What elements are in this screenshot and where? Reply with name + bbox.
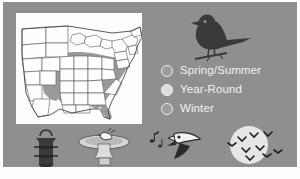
migration-moon-icon	[216, 124, 290, 169]
range-legend: Spring/Summer Year-Round Winter	[161, 62, 297, 120]
main-card: Spring/Summer Year-Round Winter	[3, 2, 297, 167]
legend-item-year-round[interactable]: Year-Round	[161, 81, 297, 99]
legend-item-winter[interactable]: Winter	[161, 100, 297, 118]
legend-item-label: Year-Round	[180, 84, 242, 96]
bird-activity-icon-row	[3, 124, 297, 169]
infographic-root: Spring/Summer Year-Round Winter	[0, 0, 300, 179]
birdbath-icon	[75, 124, 133, 169]
legend-item-label: Winter	[180, 103, 214, 115]
bird-feeder-icon	[25, 124, 67, 169]
legend-item-label: Spring/Summer	[180, 65, 261, 77]
circle-icon	[161, 84, 173, 96]
circle-icon	[161, 103, 173, 115]
legend-item-spring-summer[interactable]: Spring/Summer	[161, 62, 297, 80]
circle-icon	[161, 65, 173, 77]
singing-bird-icon	[148, 124, 208, 169]
us-range-map	[16, 13, 142, 124]
perched-bird-silhouette	[181, 6, 255, 64]
